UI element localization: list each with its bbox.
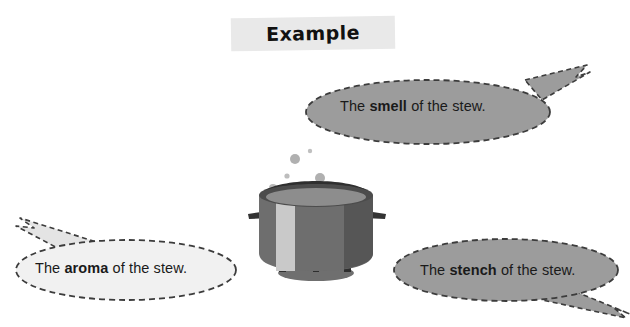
smell-text-keyword: smell [369,98,407,114]
speech-bubble-aroma-text: The aroma of the stew. [35,260,187,276]
cooking-pot-illustration [240,145,395,285]
aroma-text-suffix: of the stew. [108,260,187,276]
speech-bubble-stench: The stench of the stew. [392,226,630,322]
stench-text-suffix: of the stew. [497,262,576,278]
speech-bubble-smell: The smell of the stew. [300,58,600,148]
speech-bubble-smell-tail [525,65,590,100]
smell-text-prefix: The [340,98,369,114]
smell-text-suffix: of the stew. [407,98,486,114]
stench-text-keyword: stench [449,262,496,278]
aroma-text-prefix: The [35,260,64,276]
speech-bubble-smell-text: The smell of the stew. [340,98,486,114]
speech-bubble-aroma-shape [8,212,258,304]
stench-text-prefix: The [420,262,449,278]
pot-highlight-stripe [276,195,295,271]
pot-body-shadow [344,195,373,269]
aroma-text-keyword: aroma [64,260,108,276]
example-header-label: Example [231,15,396,51]
speech-bubble-stench-text: The stench of the stew. [420,262,575,278]
speech-bubble-aroma: The aroma of the stew. [8,212,258,304]
pot-stew-surface [266,188,366,206]
illustration-page: Example The smell of the stew. The aroma… [0,0,630,327]
